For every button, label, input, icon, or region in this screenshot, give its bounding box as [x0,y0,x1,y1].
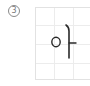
grid-line-horizontal [36,63,90,64]
item-number: 3 [11,6,16,15]
item-number-badge: 3 [8,5,20,17]
handwritten-character-a [50,22,82,62]
